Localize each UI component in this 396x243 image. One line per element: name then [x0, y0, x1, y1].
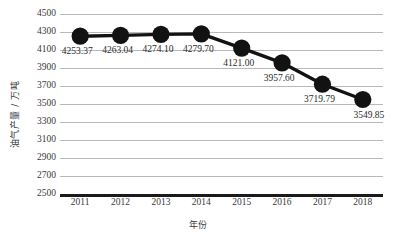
data-point-marker — [72, 28, 89, 45]
x-axis-title: 年份 — [0, 218, 396, 231]
chart-figure: 油气产量 / 万吨 250027002900310033003500370039… — [0, 0, 396, 243]
data-point-label: 3957.60 — [264, 73, 295, 83]
data-point-marker — [314, 76, 331, 93]
x-tick-label: 2017 — [313, 197, 332, 208]
data-point-label: 4263.04 — [102, 45, 133, 55]
y-tick-label: 3900 — [22, 63, 56, 73]
data-point-label: 3549.85 — [353, 110, 384, 120]
y-tick-label: 4100 — [22, 45, 56, 55]
y-tick-label: 3500 — [22, 99, 56, 109]
data-point-label: 4121.00 — [223, 58, 254, 68]
y-tick-label: 3300 — [22, 117, 56, 127]
y-tick-label: 3100 — [22, 135, 56, 145]
x-tick-label: 2013 — [151, 197, 170, 208]
x-tick-label: 2018 — [353, 197, 372, 208]
plot-area: 4253.374263.044274.104279.704121.003957.… — [60, 14, 383, 194]
y-axis-title: 油气产量 / 万吨 — [8, 75, 21, 155]
data-point-marker — [112, 27, 129, 44]
data-point-marker — [354, 91, 371, 108]
y-tick-label: 2500 — [22, 189, 56, 199]
x-tick-label: 2015 — [232, 197, 251, 208]
y-tick-label: 2700 — [22, 171, 56, 181]
y-tick-label: 2900 — [22, 153, 56, 163]
data-point-label: 4253.37 — [62, 46, 93, 56]
data-point-marker — [233, 40, 250, 57]
data-point-label: 3719.79 — [304, 94, 335, 104]
y-tick-label: 4500 — [22, 9, 56, 19]
x-tick-label: 2016 — [273, 197, 292, 208]
x-tick-label: 2012 — [111, 197, 130, 208]
x-tick-label: 2011 — [71, 197, 90, 208]
data-point-label: 4279.70 — [183, 44, 214, 54]
data-point-marker — [193, 25, 210, 42]
data-point-marker — [152, 26, 169, 43]
data-point-label: 4274.10 — [143, 44, 174, 54]
x-tick-label: 2014 — [192, 197, 211, 208]
y-axis-tick-labels: 2500270029003100330035003700390041004300… — [22, 0, 56, 243]
x-axis-tick-labels: 20112012201320142015201620172018 — [60, 197, 383, 213]
y-tick-label: 3700 — [22, 81, 56, 91]
y-tick-label: 4300 — [22, 27, 56, 37]
data-point-marker — [273, 54, 290, 71]
